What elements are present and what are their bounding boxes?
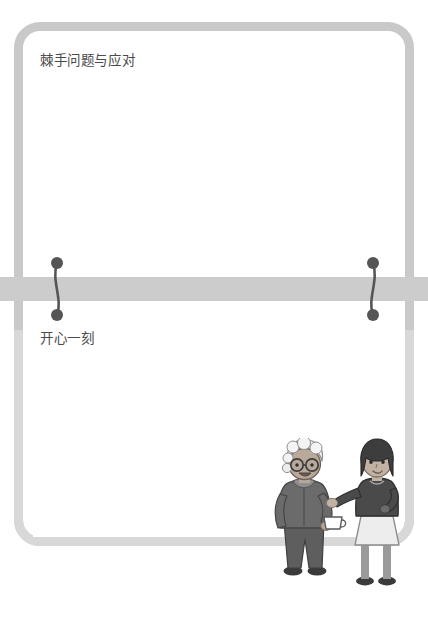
young-woman-figure [326,439,399,585]
young-woman-eye-right [381,460,385,464]
elderly-woman-hair-curl-2 [298,438,311,450]
elderly-woman-trousers [284,522,324,568]
top-section-label: 棘手问题与应对 [40,54,135,68]
right-connector [360,255,386,323]
right-connector-dot-top [367,257,379,269]
young-woman-hand-right [380,505,390,513]
left-connector-graphic [44,255,70,323]
top-section-card [33,40,395,275]
left-connector [44,255,70,323]
left-connector-line [55,263,58,315]
two-women-conversation-illustration [262,438,428,598]
young-woman-skirt [355,516,399,545]
left-connector-dot-bottom [51,309,63,321]
elderly-woman-eye-left [295,463,298,466]
slide-canvas: 棘手问题与应对 开心一刻 [0,0,428,620]
cup [324,517,342,529]
right-connector-line [371,263,374,315]
young-woman-hand-left [326,498,337,507]
left-connector-dot-top [51,257,63,269]
right-connector-graphic [360,255,386,323]
right-connector-dot-bottom [367,309,379,321]
elderly-woman-eye-right [310,463,313,466]
elderly-woman-hair-curl-3 [310,442,322,454]
young-woman-eye-left [369,460,373,464]
young-woman-leg-right [383,542,391,579]
young-woman-leg-left [361,542,369,579]
illustration-graphic [262,438,428,598]
bottom-section-label: 开心一刻 [40,332,94,346]
